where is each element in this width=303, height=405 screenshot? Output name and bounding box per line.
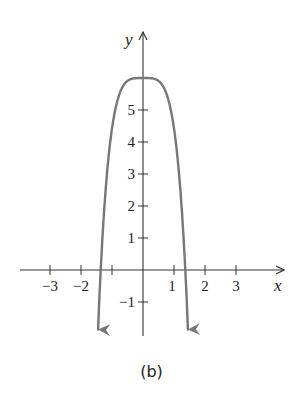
y-tick-label: 1 [128,230,136,246]
y-axis-label: y [123,30,133,49]
y-tick-label: 5 [128,102,136,118]
x-axis-ticks: −3−2123 [42,265,240,294]
x-tick-label: 2 [201,278,209,294]
x-tick-label: −2 [73,278,89,294]
x-axis-label: x [273,276,282,295]
function-graph: −3−2123 −112345 x y [0,0,303,405]
x-tick-label: 1 [168,278,176,294]
figure-caption: (b) [0,362,303,381]
y-tick-label: −1 [119,294,135,310]
y-axis-ticks: −112345 [119,102,148,310]
y-tick-label: 3 [128,166,136,182]
y-tick-label: 4 [128,134,136,150]
x-tick-label: −3 [42,278,58,294]
y-tick-label: 2 [128,198,136,214]
x-tick-label: 3 [232,278,240,294]
